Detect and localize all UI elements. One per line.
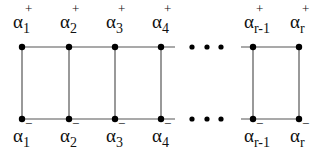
ellipsis-dot — [189, 44, 194, 49]
ellipsis-dots — [189, 44, 223, 121]
ellipsis-dot — [204, 116, 209, 121]
top-node-sign: + — [256, 1, 263, 16]
top-node-sign: + — [302, 1, 309, 16]
bottom-node-sign: − — [118, 116, 125, 131]
top-node-sign: + — [118, 1, 125, 16]
bottom-node-sign: − — [25, 116, 32, 131]
ladder-diagram: α1+α2+α3+α4+αr-1+αr+α1−α2−α3−α4−αr-1−αr− — [0, 0, 329, 159]
top-node — [19, 44, 25, 50]
top-node-sign: + — [25, 1, 32, 16]
top-node — [112, 44, 118, 50]
bottom-node-sign: − — [302, 116, 309, 131]
ellipsis-dot — [204, 44, 209, 49]
top-node — [66, 44, 72, 50]
top-node — [250, 44, 256, 50]
top-node-sign: + — [72, 1, 79, 16]
ellipsis-dot — [189, 116, 194, 121]
bottom-node-sign: − — [72, 116, 79, 131]
top-node — [296, 44, 302, 50]
ellipsis-dot — [218, 44, 223, 49]
bottom-node-sign: − — [164, 116, 171, 131]
bottom-node-sign: − — [256, 116, 263, 131]
top-node — [158, 44, 164, 50]
top-node-sign: + — [164, 1, 171, 16]
edges — [22, 47, 299, 119]
ellipsis-dot — [218, 116, 223, 121]
